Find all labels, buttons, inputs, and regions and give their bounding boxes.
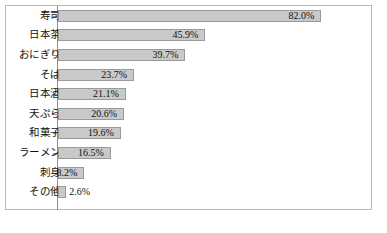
- bar-rows: 寿司82.0%日本茶45.9%おにぎり39.7%そば23.7%日本酒21.1%天…: [0, 6, 387, 210]
- bar: 21.1%: [58, 88, 126, 100]
- bar-value-label: 20.6%: [91, 109, 117, 119]
- bar: 45.9%: [58, 29, 205, 41]
- bar: 20.6%: [58, 108, 124, 120]
- bar-row: 日本茶45.9%: [0, 26, 387, 46]
- bar-row: おにぎり39.7%: [0, 45, 387, 65]
- category-label: おにぎり: [19, 50, 60, 61]
- category-label: そば: [40, 69, 60, 80]
- bar-value-label: 8.2%: [56, 168, 77, 178]
- bar: 16.5%: [58, 147, 111, 159]
- category-label: ラーメン: [19, 148, 60, 159]
- bar-row: その他2.6%: [0, 182, 387, 202]
- bar-row: 日本酒21.1%: [0, 84, 387, 104]
- bar-row: そば23.7%: [0, 65, 387, 85]
- category-label: 天ぷら: [29, 109, 60, 120]
- bar-value-label: 21.1%: [93, 89, 119, 99]
- bar-row: 和菓子19.6%: [0, 124, 387, 144]
- category-label: その他: [29, 187, 60, 198]
- bar: 19.6%: [58, 127, 121, 139]
- bar-value-label: 82.0%: [288, 11, 314, 21]
- bar: 39.7%: [58, 49, 185, 61]
- bar-value-label: 19.6%: [88, 128, 114, 138]
- bar: 8.2%: [58, 167, 84, 179]
- bar-value-label: 23.7%: [101, 70, 127, 80]
- bar-chart-figure: 寿司82.0%日本茶45.9%おにぎり39.7%そば23.7%日本酒21.1%天…: [0, 0, 387, 233]
- bar-value-label: 39.7%: [153, 50, 179, 60]
- bar-value-label: 16.5%: [78, 148, 104, 158]
- bar: 2.6%: [58, 186, 66, 198]
- category-label: 寿司: [40, 11, 60, 22]
- bar-value-label: 2.6%: [69, 187, 90, 197]
- bar-row: 寿司82.0%: [0, 6, 387, 26]
- bar-row: 刺身8.2%: [0, 163, 387, 183]
- category-label: 日本酒: [29, 89, 60, 100]
- bar: 82.0%: [58, 10, 321, 22]
- bar-row: 天ぷら20.6%: [0, 104, 387, 124]
- category-label: 日本茶: [29, 30, 60, 41]
- category-label: 和菓子: [29, 128, 60, 139]
- bar-row: ラーメン16.5%: [0, 143, 387, 163]
- bar-value-label: 45.9%: [172, 30, 198, 40]
- bar: 23.7%: [58, 69, 134, 81]
